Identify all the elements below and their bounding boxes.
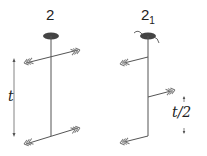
- screw-tail-left: [134, 31, 142, 34]
- rotation-axis-2: [13, 33, 81, 147]
- rotation-axis-symbol: 2: [46, 6, 54, 23]
- top-double-arrow: [26, 50, 78, 63]
- screw-tail-right: [154, 37, 159, 43]
- screw-axis-2-1: [119, 31, 185, 146]
- symmetry-diagram: [0, 0, 207, 156]
- translation-label-t-half: t/2: [172, 104, 191, 120]
- screw-axis-symbol: 21: [141, 6, 155, 26]
- bottom-double-arrow: [26, 128, 78, 144]
- screw-axis-subscript: 1: [149, 15, 155, 26]
- translation-label-t: t: [8, 88, 14, 104]
